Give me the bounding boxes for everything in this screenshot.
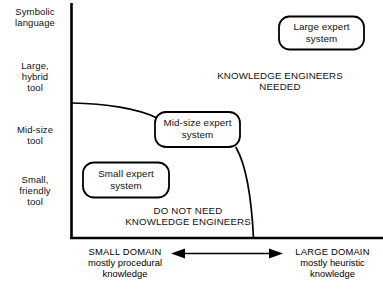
- region-label-knowledge-engineers-needed: KNOWLEDGE ENGINEERS NEEDED: [205, 70, 355, 93]
- x-axis-label-large-domain: LARGE DOMAIN mostly heuristic knowledge: [284, 246, 381, 280]
- x-axis-label-large-domain-head: LARGE DOMAIN: [284, 246, 381, 257]
- y-axis-label-small-friendly-tool: Small, friendly tool: [2, 174, 68, 208]
- y-axis-label-symbolic-language: Symbolic language: [2, 6, 68, 28]
- y-axis-label-large-hybrid-tool: Large, hybrid tool: [2, 60, 68, 94]
- x-axis-label-small-domain: SMALL DOMAIN mostly procedural knowledge: [73, 246, 177, 280]
- x-axis-label-small-domain-head: SMALL DOMAIN: [73, 246, 177, 257]
- expert-system-diagram: Symbolic language Large, hybrid tool Mid…: [0, 0, 383, 294]
- arrow-head-right-icon: [269, 249, 283, 259]
- small-expert-system-label: Small expert system: [83, 168, 169, 191]
- x-axis-label-small-domain-sub: mostly procedural knowledge: [73, 257, 177, 280]
- large-expert-system-label: Large expert system: [279, 21, 364, 44]
- divider-curve-left: [73, 103, 158, 118]
- mid-size-expert-system-label: Mid-size expert system: [155, 117, 240, 140]
- region-label-do-not-need-knowledge-engineers: DO NOT NEED KNOWLEDGE ENGINEERS: [113, 205, 263, 228]
- y-axis-label-mid-size-tool: Mid-size tool: [2, 124, 68, 146]
- x-axis-label-large-domain-sub: mostly heuristic knowledge: [284, 257, 381, 280]
